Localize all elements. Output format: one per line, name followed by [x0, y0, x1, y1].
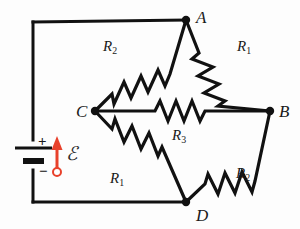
- resistor-label-R1-bottom-left: R1: [110, 171, 124, 188]
- circuit-schematic-svg: [0, 0, 300, 229]
- emf-arrow: [52, 136, 63, 176]
- resistor-label-R2-bottom-right: R2: [236, 166, 250, 183]
- emf-symbol-label: ℰ: [66, 144, 78, 163]
- battery-plus-sign: +: [38, 134, 47, 149]
- resistor-label-R3-bridge: R3: [172, 128, 186, 145]
- node-label-D: D: [196, 207, 208, 224]
- resistor-label-R1-top-right: R1: [237, 39, 251, 56]
- node-dot-C: [91, 107, 99, 115]
- branch-D-B-R2: [186, 111, 270, 202]
- resistor-letter: R: [103, 38, 112, 54]
- resistor-letter: R: [172, 127, 181, 143]
- resistor-letter: R: [110, 170, 119, 186]
- emf-arrow-head: [52, 136, 63, 150]
- resistor-subscript: 1: [246, 45, 251, 56]
- battery-minus-sign: −: [39, 164, 48, 179]
- circuit-diagram-figure: A B C D R2 R1 R3 R1 R2 + − ℰ: [0, 0, 300, 229]
- resistor-subscript: 3: [181, 134, 186, 145]
- node-label-A: A: [196, 9, 206, 26]
- branch-C-D-R1: [95, 111, 186, 202]
- node-label-C: C: [76, 103, 87, 120]
- node-dot-A: [182, 16, 190, 24]
- branch-A-B-R1: [186, 20, 270, 111]
- node-dot-D: [182, 198, 190, 206]
- branch-C-B-R3: [95, 101, 270, 121]
- branch-C-A-R2: [95, 20, 186, 111]
- resistor-letter: R: [237, 38, 246, 54]
- resistor-subscript: 2: [112, 45, 117, 56]
- resistor-letter: R: [236, 165, 245, 181]
- resistor-label-R2-top-left: R2: [103, 39, 117, 56]
- node-label-B: B: [279, 103, 289, 120]
- resistor-subscript: 2: [245, 172, 250, 183]
- node-dot-B: [266, 107, 274, 115]
- resistor-subscript: 1: [119, 177, 124, 188]
- wire-top-rail: [33, 20, 186, 22]
- battery-symbol: [15, 148, 52, 161]
- emf-arrow-tail-circle: [53, 168, 61, 176]
